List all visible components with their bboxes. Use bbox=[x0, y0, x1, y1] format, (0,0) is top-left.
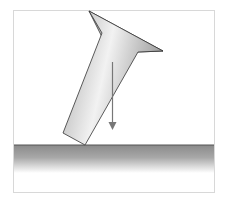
ground bbox=[14, 145, 214, 173]
diagram-canvas bbox=[0, 0, 230, 198]
